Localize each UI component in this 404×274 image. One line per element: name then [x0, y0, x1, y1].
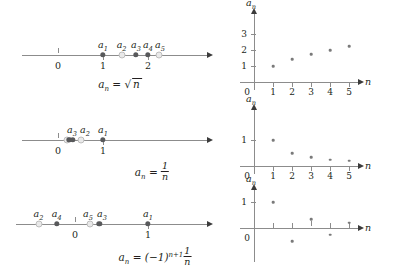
plot-y-tick — [251, 140, 256, 141]
plot-data-point — [291, 58, 294, 61]
plot-y-axis-label: an — [246, 174, 256, 186]
plot-x-ticklabel: 2 — [289, 88, 295, 97]
plot-x-ticklabel: 1 — [270, 172, 276, 181]
plot-y-ticklabel: 1 — [237, 62, 247, 71]
sequences-figure: 0 1 2 a1 a2 a3 a4 a5 — [0, 0, 404, 274]
formula-alternating: an = (−1)n+1 1 n — [119, 246, 192, 267]
plot-x-axis-arrow-icon — [358, 79, 364, 85]
number-line-arrow-icon — [207, 137, 213, 143]
plot-y-tick — [251, 66, 256, 67]
plot-origin-label: 0 — [244, 234, 250, 243]
plot-y-axis — [254, 110, 255, 174]
radical-icon: √ — [124, 79, 131, 90]
formula-reciprocal: an = 1 n — [135, 161, 169, 182]
plot-data-point — [310, 53, 313, 56]
number-line-tick — [58, 48, 59, 53]
plot-data-point — [348, 160, 351, 163]
number-line-point-label: a2 — [34, 209, 44, 221]
number-line-point — [70, 137, 75, 142]
number-line-point-label: a3 — [67, 125, 77, 137]
plot-data-point — [329, 49, 332, 52]
plot-y-tick — [251, 202, 256, 203]
fraction: 1 n — [183, 246, 191, 267]
number-line-tick-label: 1 — [100, 61, 106, 71]
plot-x-axis — [240, 228, 359, 229]
plot-y-ticklabel: 3 — [237, 30, 247, 39]
number-line-point — [77, 137, 84, 144]
number-line-alternating: 0 1 a2 a4 a5 a3 a1 an — [0, 182, 232, 274]
sequence-panel-reciprocal: 0 1 a3 a2 a1 an = 1 n — [0, 98, 404, 186]
plot-y-tick — [251, 34, 256, 35]
plot-data-point — [272, 65, 275, 68]
number-line-tick-label: 0 — [72, 230, 78, 240]
number-line-point-label: a4 — [52, 209, 62, 221]
plot-data-point — [272, 139, 275, 142]
plot-y-axis-label: an — [246, 94, 256, 106]
plot-y-ticklabel: 1 — [237, 136, 247, 145]
plot-y-axis — [254, 190, 255, 262]
plot-x-ticklabel: 3 — [308, 88, 314, 97]
number-line-point — [54, 221, 59, 226]
number-line-point — [100, 137, 105, 142]
plot-y-axis — [254, 14, 255, 90]
plot-y-tick — [251, 50, 256, 51]
plot-data-point — [348, 222, 351, 225]
number-line-axis — [22, 140, 208, 141]
plot-data-point — [329, 233, 332, 236]
plot-x-axis — [240, 82, 359, 83]
plot-x-ticklabel: 2 — [289, 172, 295, 181]
number-line-point-label: a4 — [143, 40, 153, 52]
sequence-panel-alternating: 0 1 a2 a4 a5 a3 a1 an — [0, 182, 404, 274]
plot-x-ticklabel: 3 — [308, 172, 314, 181]
scatter-plot-reciprocal: an n 0 1 2 3 4 5 1 — [232, 98, 404, 186]
number-line-point-label: a1 — [98, 125, 108, 137]
plot-x-ticklabel: 5 — [346, 172, 352, 181]
number-line-point-label: a2 — [80, 125, 90, 137]
plot-x-axis-label: n — [365, 223, 371, 233]
number-line-point-label: a1 — [98, 40, 108, 52]
plot-x-ticklabel: 4 — [327, 172, 333, 181]
number-line-point-label: a2 — [117, 40, 127, 52]
plot-data-point — [310, 218, 313, 221]
plot-data-point — [310, 156, 313, 159]
number-line-arrow-icon — [207, 52, 213, 58]
plot-x-axis-label: n — [365, 161, 371, 171]
number-line-point — [97, 221, 102, 226]
number-line-sqrt: 0 1 2 a1 a2 a3 a4 a5 — [0, 0, 232, 100]
sequence-panel-sqrt: 0 1 2 a1 a2 a3 a4 a5 — [0, 0, 404, 100]
plot-y-axis-label: an — [246, 0, 256, 10]
number-line-point — [145, 221, 150, 226]
scatter-plot-alternating: an n 1 0 — [232, 182, 404, 274]
plot-x-axis-arrow-icon — [358, 163, 364, 169]
number-line-tick-label: 2 — [145, 61, 151, 71]
number-line-point-label: a1 — [143, 209, 153, 221]
number-line-point-label: a3 — [131, 40, 141, 52]
number-line-point-label: a3 — [97, 209, 107, 221]
fraction: 1 n — [161, 161, 169, 182]
plot-x-tick — [292, 223, 293, 228]
number-line-tick-label: 0 — [55, 146, 61, 156]
number-line-point-label: a5 — [155, 40, 165, 52]
plot-x-ticklabel: 1 — [270, 88, 276, 97]
plot-data-point — [329, 158, 332, 161]
number-line-tick — [58, 133, 59, 138]
plot-x-axis — [240, 166, 359, 167]
plot-y-ticklabel: 2 — [237, 46, 247, 55]
plot-x-tick — [330, 223, 331, 228]
number-line-tick-label: 1 — [145, 230, 151, 240]
number-line-reciprocal: 0 1 a3 a2 a1 an = 1 n — [0, 98, 232, 186]
number-line-axis — [16, 224, 208, 225]
number-line-tick — [75, 217, 76, 222]
plot-x-ticklabel: 5 — [346, 88, 352, 97]
number-line-arrow-icon — [207, 221, 213, 227]
plot-x-tick — [273, 223, 274, 228]
number-line-tick-label: 0 — [55, 61, 61, 71]
number-line-point — [100, 52, 105, 57]
plot-y-ticklabel: 1 — [237, 198, 247, 207]
plot-x-axis-arrow-icon — [358, 225, 364, 231]
scatter-plot-sqrt: an n 0 1 2 3 4 5 1 2 3 — [232, 0, 404, 100]
number-line-axis — [22, 55, 208, 56]
plot-x-tick — [311, 221, 312, 226]
number-line-tick-label: 1 — [100, 146, 106, 156]
plot-data-point — [291, 240, 294, 243]
